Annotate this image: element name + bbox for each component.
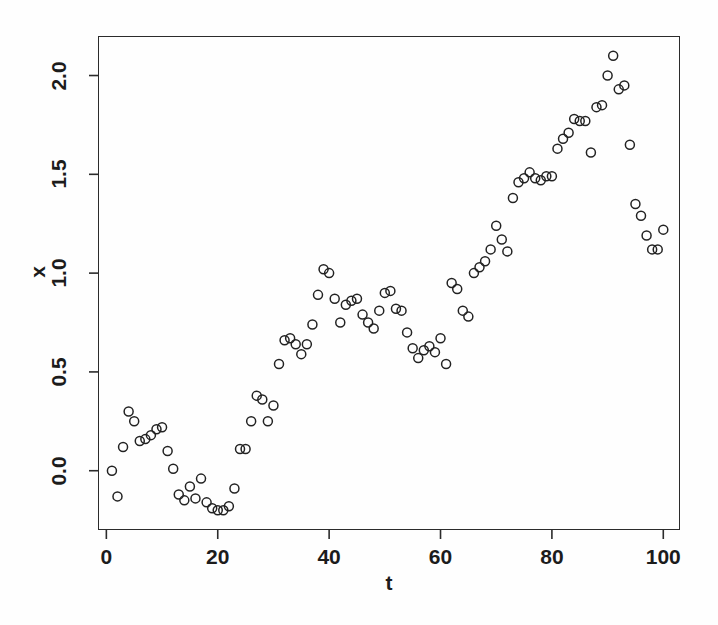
- data-point-marker: [598, 101, 607, 110]
- data-point-marker: [475, 263, 484, 272]
- data-point-marker: [174, 490, 183, 499]
- data-point-marker: [336, 318, 345, 327]
- data-point-marker: [263, 417, 272, 426]
- scatter-plot-figure: 020406080100 0.00.51.01.52.0 t x: [0, 0, 718, 625]
- x-axis-ticks: [106, 530, 663, 539]
- data-point-marker: [269, 401, 278, 410]
- data-point-marker: [592, 103, 601, 112]
- data-point-marker: [169, 464, 178, 473]
- data-point-marker: [191, 494, 200, 503]
- x-tick-label: 0: [101, 545, 113, 569]
- y-axis-ticks: [89, 76, 98, 471]
- y-axis-title: x: [26, 266, 50, 278]
- data-point-marker: [124, 407, 133, 416]
- data-point-marker: [559, 134, 568, 143]
- data-point-marker: [302, 340, 311, 349]
- data-point-marker: [386, 286, 395, 295]
- data-point-marker: [180, 496, 189, 505]
- y-tick-label: 1.0: [47, 251, 71, 295]
- data-point-marker: [275, 360, 284, 369]
- data-point-marker: [464, 312, 473, 321]
- x-tick-label: 20: [206, 545, 229, 569]
- data-point-marker: [486, 245, 495, 254]
- data-point-marker: [308, 320, 317, 329]
- data-point-marker: [603, 71, 612, 80]
- data-point-marker: [492, 221, 501, 230]
- data-point-marker: [453, 284, 462, 293]
- x-tick-label: 40: [317, 545, 340, 569]
- data-point-marker: [364, 318, 373, 327]
- data-point-marker: [508, 194, 517, 203]
- data-point-marker: [375, 306, 384, 315]
- data-point-marker: [197, 474, 206, 483]
- data-point-marker: [135, 437, 144, 446]
- data-point-marker: [436, 334, 445, 343]
- data-point-marker: [380, 288, 389, 297]
- data-point-marker: [291, 340, 300, 349]
- data-point-marker: [152, 425, 161, 434]
- y-tick-label: 2.0: [47, 54, 71, 98]
- data-point-marker: [202, 498, 211, 507]
- data-point-marker: [280, 336, 289, 345]
- data-point-marker: [481, 257, 490, 266]
- data-point-marker: [414, 354, 423, 363]
- data-point-marker: [208, 504, 217, 513]
- data-point-marker: [247, 417, 256, 426]
- data-point-marker: [241, 444, 250, 453]
- data-point-marker: [625, 140, 634, 149]
- data-point-marker: [391, 304, 400, 313]
- plot-canvas: [0, 0, 718, 625]
- data-point-marker: [313, 290, 322, 299]
- data-point-marker: [581, 116, 590, 125]
- data-point-marker: [286, 334, 295, 343]
- data-point-marker: [430, 348, 439, 357]
- data-point-marker: [352, 294, 361, 303]
- data-point-marker: [525, 168, 534, 177]
- data-point-marker: [358, 310, 367, 319]
- data-point-marker: [408, 344, 417, 353]
- data-point-marker: [570, 114, 579, 123]
- data-point-marker: [642, 231, 651, 240]
- data-point-marker: [659, 225, 668, 234]
- data-point-marker: [497, 235, 506, 244]
- data-point-marker: [163, 446, 172, 455]
- data-point-marker: [397, 306, 406, 315]
- data-point-marker: [586, 148, 595, 157]
- data-point-marker: [119, 443, 128, 452]
- data-point-marker: [653, 245, 662, 254]
- data-point-marker: [458, 306, 467, 315]
- x-tick-label: 80: [540, 545, 563, 569]
- data-point-marker: [631, 199, 640, 208]
- data-point-marker: [609, 51, 618, 60]
- data-point-marker: [531, 174, 540, 183]
- data-point-marker: [107, 466, 116, 475]
- y-tick-label: 1.5: [47, 152, 71, 196]
- data-point-marker: [113, 492, 122, 501]
- data-point-marker: [130, 417, 139, 426]
- data-point-marker: [442, 360, 451, 369]
- x-tick-label: 100: [646, 545, 681, 569]
- data-point-marker: [330, 294, 339, 303]
- data-point-marker: [297, 350, 306, 359]
- data-point-marker: [185, 482, 194, 491]
- data-point-marker: [158, 423, 167, 432]
- data-point-marker: [369, 324, 378, 333]
- x-axis-title: t: [386, 571, 393, 595]
- data-point-marker: [503, 247, 512, 256]
- data-point-marker: [564, 128, 573, 137]
- x-tick-label: 60: [429, 545, 452, 569]
- data-point-marker: [547, 172, 556, 181]
- data-point-marker: [230, 484, 239, 493]
- data-point-marker: [447, 279, 456, 288]
- y-tick-label: 0.0: [47, 449, 71, 493]
- data-point-marker: [469, 269, 478, 278]
- y-tick-label: 0.5: [47, 350, 71, 394]
- data-point-marker: [637, 211, 646, 220]
- data-point-marker: [403, 328, 412, 337]
- data-point-markers: [107, 51, 667, 514]
- data-point-marker: [553, 144, 562, 153]
